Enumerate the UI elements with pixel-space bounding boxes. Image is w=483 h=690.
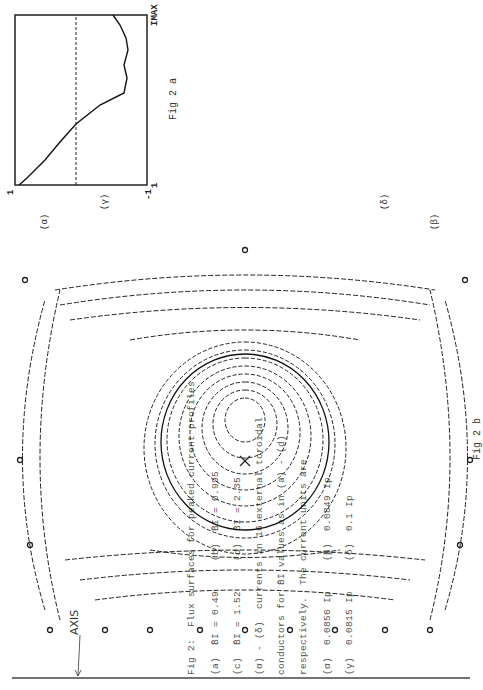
conductor-label-alpha: (α): [40, 214, 50, 230]
conductor-label-beta: (β): [430, 214, 440, 230]
axis-label: AXIS: [68, 610, 81, 635]
conductor-label-delta: (δ): [380, 194, 390, 210]
fig2b-label: Fig 2 b: [472, 418, 483, 460]
fig2b-plot: AXIS (α) (β) (γ) (δ) Fig 2 b: [0, 0, 483, 690]
fig2b-graphic: [0, 0, 483, 690]
figure-page: 1 -1 1 IMAX Fig 2 a Fig 2: Flux surfaces…: [0, 0, 483, 690]
conductor-label-gamma: (γ): [100, 194, 110, 210]
